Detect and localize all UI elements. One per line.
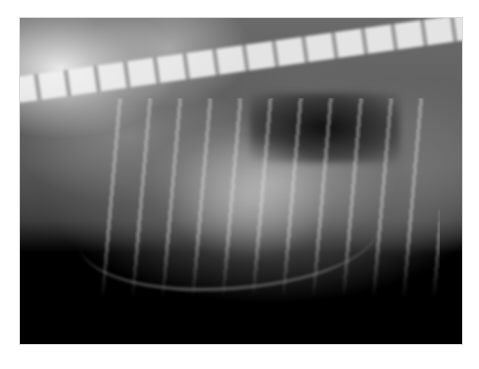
radiograph-image (20, 18, 462, 344)
